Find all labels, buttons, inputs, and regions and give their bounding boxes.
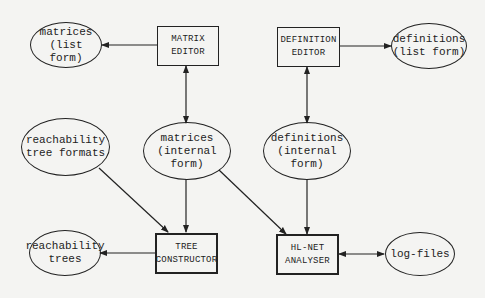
node-label: definitions bbox=[271, 132, 344, 145]
node-label: (internal form) bbox=[264, 145, 350, 171]
node-definitions-list-form: definitions (list form) bbox=[391, 23, 467, 69]
node-label: MATRIX bbox=[171, 33, 205, 46]
edge-matrices-internal-to-hlnet bbox=[219, 170, 286, 234]
node-label: TREE bbox=[175, 241, 197, 254]
node-label: tree formats bbox=[26, 147, 105, 160]
node-reachability-trees: reachability trees bbox=[29, 230, 101, 276]
node-label: reachability bbox=[25, 240, 104, 253]
node-hlnet-analyser: HL-NET ANALYSER bbox=[276, 234, 339, 275]
node-definition-editor: DEFINITION EDITOR bbox=[277, 27, 340, 67]
node-tree-constructor: TREE CONSTRUCTOR bbox=[155, 233, 218, 274]
node-label: matrices bbox=[161, 132, 214, 145]
node-matrix-editor: MATRIX EDITOR bbox=[157, 26, 219, 66]
node-label: trees bbox=[48, 253, 81, 266]
node-label: CONSTRUCTOR bbox=[156, 254, 218, 267]
node-label: matrices bbox=[40, 26, 93, 39]
node-definitions-internal-form: definitions (internal form) bbox=[263, 122, 351, 180]
node-label: (internal form) bbox=[144, 145, 230, 171]
node-reachability-tree-formats: reachability tree formats bbox=[21, 118, 110, 176]
node-matrices-internal-form: matrices (internal form) bbox=[143, 122, 231, 180]
node-label: ANALYSER bbox=[285, 255, 330, 268]
node-label: reachability bbox=[26, 134, 105, 147]
node-label: (list form) bbox=[31, 39, 101, 65]
node-label: log-files bbox=[390, 248, 449, 261]
node-label: (list form) bbox=[393, 46, 466, 59]
node-label: HL-NET bbox=[291, 242, 325, 255]
node-label: EDITOR bbox=[171, 46, 205, 59]
node-label: EDITOR bbox=[292, 47, 326, 60]
node-matrices-list-form: matrices (list form) bbox=[30, 22, 102, 68]
node-label: DEFINITION bbox=[280, 34, 336, 47]
node-log-files: log-files bbox=[385, 232, 455, 276]
node-label: definitions bbox=[393, 33, 466, 46]
edge-reach-formats-to-tree-constructor bbox=[99, 168, 168, 232]
